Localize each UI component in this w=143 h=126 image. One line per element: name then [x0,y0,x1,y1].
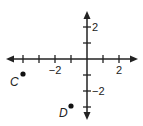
x-tick-label-2: 2 [116,64,122,76]
y-tick-label-neg2: −2 [92,85,105,97]
point-c-label: C [10,75,19,89]
x-axis-left-arrow-icon [6,56,14,63]
point-c [20,71,25,76]
x-axis-right-arrow-icon [130,56,138,63]
x-tick-label-neg2: −2 [49,64,62,76]
point-d-label: D [59,106,68,120]
y-axis-up-arrow-icon [84,11,91,19]
point-d [68,103,73,108]
coordinate-plane: −2 2 2 −2 C D [0,0,143,126]
y-tick-label-2: 2 [92,21,98,33]
y-axis-down-arrow-icon [84,112,91,120]
